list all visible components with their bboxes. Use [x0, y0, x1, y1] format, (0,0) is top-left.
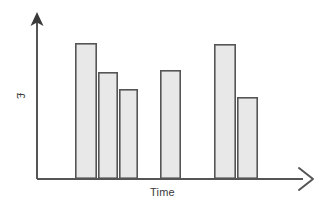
bar-3[interactable] [120, 90, 137, 178]
bars-group [76, 44, 257, 178]
bar-group-2 [161, 71, 180, 178]
bar-2[interactable] [99, 73, 117, 178]
bar-4[interactable] [161, 71, 180, 178]
bar-1[interactable] [76, 44, 96, 178]
x-axis-label: Time [0, 186, 325, 198]
bar-group-1 [76, 44, 137, 178]
bar-5[interactable] [215, 45, 235, 178]
bar-group-3 [215, 45, 257, 178]
chart-canvas [0, 0, 325, 208]
bar-chart: £ Time [0, 0, 325, 208]
y-axis-label: £ [15, 87, 27, 105]
bar-6[interactable] [238, 98, 257, 178]
